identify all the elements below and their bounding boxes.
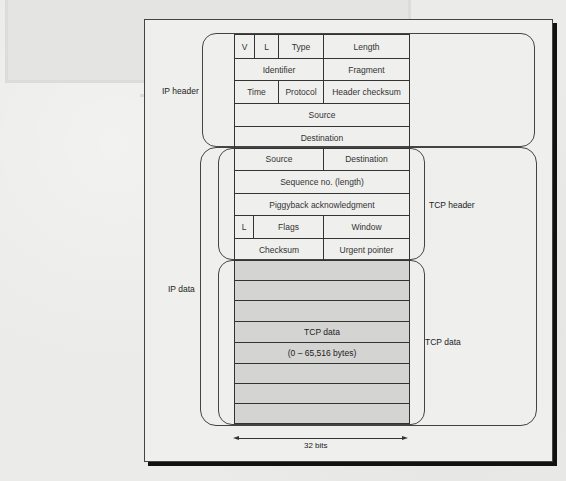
tcp-data-title: TCP data: [235, 327, 409, 337]
ip-length-field: Length: [323, 35, 409, 58]
tcp-flags-field: Flags: [253, 216, 323, 238]
tcp-sequence-field: Sequence no. (length): [235, 171, 409, 193]
tcp-header-row: Sequence no. (length): [235, 170, 409, 193]
data-row-divider: [235, 300, 409, 301]
tcp-header-row: L Flags Window: [235, 215, 409, 238]
ip-source-field: Source: [235, 104, 409, 126]
data-row-divider: [235, 321, 409, 322]
tcp-header-row: Piggyback acknowledgment: [235, 193, 409, 215]
tcp-header-row: Checksum Urgent pointer: [235, 238, 409, 260]
tcp-checksum-field: Checksum: [235, 239, 323, 260]
ip-header-grid: V L Type Length Identifier Fragment Time…: [234, 34, 410, 149]
ip-type-field: Type: [278, 35, 323, 58]
tcp-window-field: Window: [323, 216, 409, 238]
width-arrow-line: [237, 438, 403, 439]
data-row-divider: [235, 403, 409, 404]
tcp-destination-port-field: Destination: [323, 148, 409, 170]
ip-identifier-field: Identifier: [235, 59, 323, 80]
ip-protocol-field: Protocol: [278, 81, 323, 103]
ip-version-field: V: [235, 35, 254, 58]
ip-destination-field: Destination: [235, 127, 409, 149]
ip-header-checksum-field: Header checksum: [323, 81, 409, 103]
ip-data-label: IP data: [168, 284, 195, 294]
tcp-ack-field: Piggyback acknowledgment: [235, 194, 409, 215]
data-row-divider: [235, 280, 409, 281]
ip-header-label: IP header: [162, 86, 199, 96]
tcp-source-port-field: Source: [235, 148, 323, 170]
ip-header-row: V L Type Length: [235, 35, 409, 58]
ip-time-field: Time: [235, 81, 278, 103]
arrow-right-icon: [402, 436, 408, 440]
ip-header-length-field: L: [254, 35, 278, 58]
width-label: 32 bits: [304, 441, 328, 450]
data-row-divider: [235, 342, 409, 343]
tcp-header-label: TCP header: [429, 200, 475, 210]
ip-header-row: Source: [235, 103, 409, 126]
ip-header-row: Destination: [235, 126, 409, 149]
tcp-urgent-pointer-field: Urgent pointer: [323, 239, 409, 260]
data-row-divider: [235, 383, 409, 384]
tcp-header-grid: Source Destination Sequence no. (length)…: [234, 148, 410, 261]
tcp-data-area: TCP data (0 – 65,516 bytes): [234, 260, 410, 424]
ip-fragment-field: Fragment: [323, 59, 409, 80]
tcp-length-field: L: [235, 216, 253, 238]
ip-header-row: Identifier Fragment: [235, 58, 409, 80]
tcp-data-range: (0 – 65,516 bytes): [235, 348, 409, 358]
tcp-data-label: TCP data: [425, 337, 461, 347]
data-row-divider: [235, 363, 409, 364]
ip-header-row: Time Protocol Header checksum: [235, 80, 409, 103]
tcp-header-row: Source Destination: [235, 148, 409, 170]
